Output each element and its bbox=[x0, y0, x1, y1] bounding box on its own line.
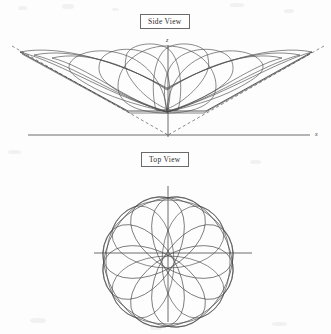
side-ellipse-6 bbox=[99, 49, 170, 112]
bowl-rim-left bbox=[20, 52, 128, 111]
figure-root: Side View bbox=[0, 0, 331, 334]
top-ellipse-5 bbox=[135, 211, 250, 334]
top-view-plot bbox=[0, 160, 331, 334]
side-ellipse-1 bbox=[20, 50, 312, 111]
top-ellipse-9 bbox=[86, 211, 201, 334]
side-view-plot bbox=[0, 0, 331, 167]
top-ellipse-4 bbox=[162, 206, 230, 318]
bowl-rim-left-2 bbox=[22, 54, 130, 113]
bowl-rim-right-2 bbox=[204, 54, 310, 113]
top-ellipse-10 bbox=[106, 206, 174, 318]
side-view-x-axis-label: x bbox=[315, 131, 318, 137]
side-view-panel: Side View bbox=[0, 0, 331, 167]
bowl-rim-right bbox=[206, 52, 312, 111]
side-view-z-axis-label: z bbox=[166, 37, 168, 43]
top-view-panel: Top View z x bbox=[0, 160, 331, 334]
